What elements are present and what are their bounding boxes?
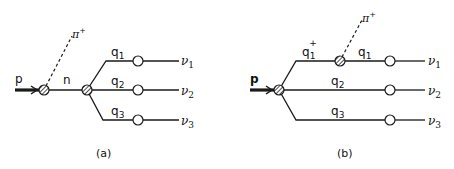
label-p: p <box>15 72 23 86</box>
label-nu3: ν3 <box>428 114 441 130</box>
open-vertex-icon <box>385 85 395 95</box>
hatched-vertex-icon <box>82 85 92 95</box>
branch-3-line <box>87 90 133 120</box>
label-q1: q1 <box>111 45 124 61</box>
label-q3: q3 <box>111 104 124 120</box>
label-nu2: ν2 <box>428 84 441 100</box>
diagram-a <box>15 36 179 125</box>
hatched-vertex-icon <box>274 85 284 95</box>
label-q2: q2 <box>331 74 344 90</box>
label-p: p <box>250 72 259 86</box>
open-vertex-icon <box>133 85 143 95</box>
label-pion: π+ <box>361 10 376 25</box>
caption-a: (a) <box>96 147 111 160</box>
label-nu3: ν3 <box>181 114 194 130</box>
label-q1: q1 <box>358 45 371 61</box>
open-vertex-icon <box>385 56 395 66</box>
open-vertex-icon <box>385 115 395 125</box>
hatched-vertex-icon <box>335 56 345 66</box>
label-n: n <box>63 73 71 87</box>
label-nu1: ν1 <box>428 54 441 70</box>
label-q3: q3 <box>331 104 344 120</box>
branch-1-line <box>87 61 133 90</box>
label-pion: π+ <box>71 26 86 41</box>
label-q1-plus: q1+ <box>302 38 317 61</box>
open-vertex-icon <box>133 56 143 66</box>
label-nu1: ν1 <box>181 54 194 70</box>
feynman-diagrams: p π+ n q1 q2 q3 ν1 ν2 ν3 (a) <box>0 0 454 169</box>
label-nu2: ν2 <box>181 84 194 100</box>
caption-b: (b) <box>337 147 353 160</box>
open-vertex-icon <box>133 115 143 125</box>
hatched-vertex-icon <box>39 85 49 95</box>
label-q2: q2 <box>111 74 124 90</box>
